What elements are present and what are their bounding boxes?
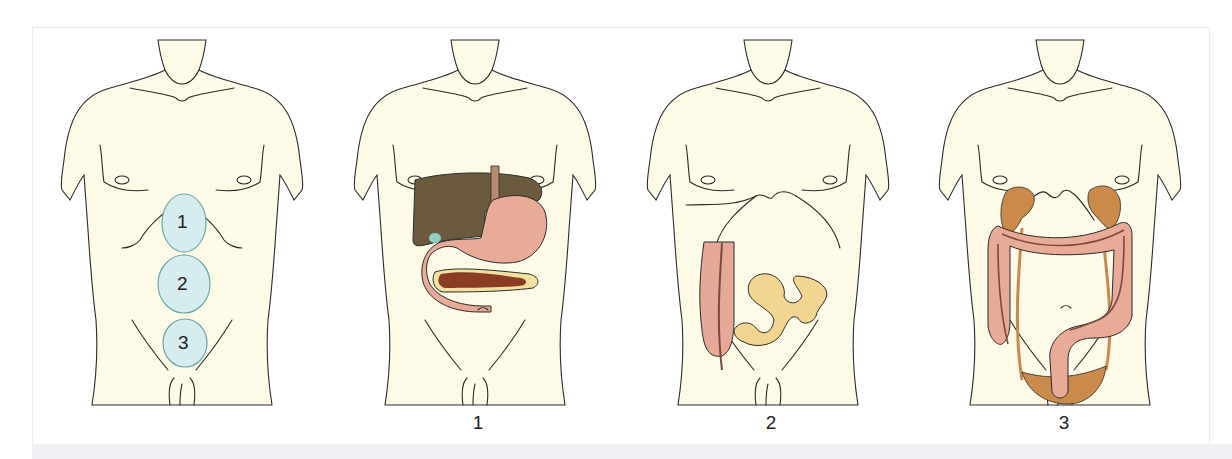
region-1-label: 1 xyxy=(177,211,188,233)
ascending-colon xyxy=(700,242,734,356)
panel-region-1: 1 xyxy=(333,0,625,459)
panel-caption: 3 xyxy=(1044,412,1084,434)
gallbladder xyxy=(429,233,441,243)
panel-caption: 1 xyxy=(458,412,498,434)
panel-caption: 2 xyxy=(751,412,791,434)
panel-region-2: 2 xyxy=(626,0,918,459)
lower-abdomen-illustration xyxy=(918,0,1210,459)
panel-overview: 1 2 3 xyxy=(40,0,332,459)
mid-abdomen-illustration xyxy=(626,0,918,459)
region-3-label: 3 xyxy=(178,332,189,354)
panel-region-3: 3 xyxy=(918,0,1210,459)
region-2-label: 2 xyxy=(177,273,188,295)
upper-abdomen-illustration xyxy=(333,0,625,459)
